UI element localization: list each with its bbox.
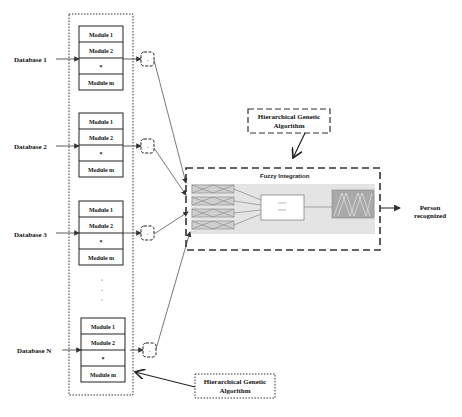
module-label: Module 1: [91, 324, 115, 330]
module-label: *: [100, 151, 103, 157]
hga-bottom-line1: Hierarchical Genetic: [204, 378, 266, 386]
module-label: Module 1: [89, 32, 113, 38]
module-stack-2: Module 1 Module 2 * Module m: [79, 113, 123, 177]
vertical-ellipsis: [101, 279, 102, 300]
connector-db2: [154, 148, 186, 195]
module-label: *: [102, 356, 105, 362]
module-label: Module 2: [89, 135, 113, 141]
database-label: Database 2: [14, 143, 47, 151]
hga-bottom-arrow: [135, 372, 195, 387]
fuzzy-integration-title: Fuzzy Integration: [260, 173, 310, 179]
hga-top-line2: Algorithm: [273, 122, 304, 130]
output-label-line1: Person: [420, 204, 441, 212]
hga-bottom-line2: Algorithm: [219, 387, 250, 395]
module-label: Module m: [88, 80, 114, 86]
hga-top-arrow: [293, 133, 305, 158]
module-stack-n: Module 1 Module 2 * Module m: [81, 318, 125, 382]
module-label: Module m: [90, 372, 116, 378]
module-stack-3: Module 1 Module 2 * Module m: [79, 201, 123, 265]
module-label: *: [100, 239, 103, 245]
connector-db3: [154, 212, 188, 234]
database-label: Database N: [17, 347, 51, 355]
module-label: Module m: [88, 255, 114, 261]
module-label: *: [100, 64, 103, 70]
output-membership-function: [332, 190, 374, 218]
connector-db1: [154, 60, 186, 183]
database-label: Database 3: [14, 231, 47, 239]
connector-dbn: [156, 232, 190, 349]
module-label: Module 1: [89, 119, 113, 125]
module-label: Module 2: [89, 48, 113, 54]
module-label: Module 2: [89, 223, 113, 229]
diagram-canvas: Module 1 Module 2 * Module m Database 1 …: [0, 0, 462, 417]
module-stack-1: Module 1 Module 2 * Module m: [79, 26, 123, 90]
hga-top-line1: Hierarchical Genetic: [258, 113, 320, 121]
module-label: Module 1: [89, 207, 113, 213]
output-label-line2: recognized: [414, 212, 446, 220]
module-label: Module m: [88, 167, 114, 173]
module-label: Module 2: [91, 340, 115, 346]
fuzzy-rules-box: [261, 195, 304, 220]
database-label: Database 1: [14, 56, 47, 64]
